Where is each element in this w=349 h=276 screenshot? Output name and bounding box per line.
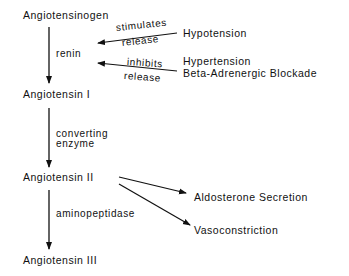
effect-aldosterone-secretion: Aldosterone Secretion	[194, 191, 308, 203]
effect-vasoconstriction: Vasoconstriction	[194, 224, 278, 236]
regulator-beta-adrenergic-blockade: Beta-Adrenergic Blockade	[183, 67, 317, 79]
enzyme-aminopeptidase: aminopeptidase	[56, 208, 135, 219]
arrow-to-aldosterone	[119, 177, 186, 193]
diagram-arrows	[0, 0, 349, 276]
regulator-hypotension: Hypotension	[183, 27, 247, 39]
node-angiotensinogen: Angiotensinogen	[23, 9, 109, 21]
regulator-hypertension: Hypertension	[183, 55, 251, 67]
node-angiotensin-3: Angiotensin III	[23, 254, 97, 266]
enzyme-converting-line2: enzyme	[56, 139, 108, 149]
node-angiotensin-2: Angiotensin II	[23, 171, 94, 183]
enzyme-converting: converting enzyme	[56, 129, 108, 149]
node-angiotensin-1: Angiotensin I	[23, 88, 90, 100]
enzyme-renin: renin	[56, 48, 81, 59]
